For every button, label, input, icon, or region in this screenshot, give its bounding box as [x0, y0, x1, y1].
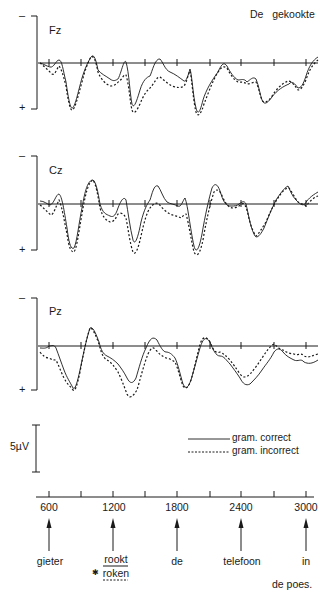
scale-bar: [32, 425, 40, 472]
cz-incorrect-wave: [40, 180, 318, 255]
word-gieter: gieter: [37, 555, 63, 567]
word-in: in: [302, 555, 310, 567]
tick-1800: 1800: [165, 501, 188, 513]
pz-correct-wave: [40, 328, 318, 389]
cz-scale-bracket: [31, 156, 37, 250]
tick-1200: 1200: [102, 501, 125, 513]
word-telefoon: telefoon: [223, 555, 260, 567]
word-de: de: [171, 555, 183, 567]
scale-bar-label: 5µV: [10, 440, 29, 452]
legend-correct-label: gram. correct: [232, 432, 291, 443]
fz-scale-bracket: [31, 16, 37, 109]
fz-correct-wave: [40, 56, 318, 112]
word-roken: roken: [103, 567, 129, 579]
legend-incorrect-label: gram. incorrect: [232, 445, 299, 456]
arrowheads: [47, 518, 309, 528]
tick-2400: 2400: [229, 501, 252, 513]
onset-arrows: [49, 524, 306, 551]
word-rookt: rookt: [104, 553, 127, 565]
ungrammatical-star-icon: ✱: [92, 568, 99, 577]
tick-600: 600: [40, 501, 58, 513]
sentence-ending: de poes.: [272, 578, 312, 590]
tick-3000: 3000: [294, 501, 317, 513]
pz-scale-bracket: [31, 298, 37, 390]
fz-incorrect-wave: [40, 57, 318, 115]
time-axis-ticks: [49, 491, 306, 497]
